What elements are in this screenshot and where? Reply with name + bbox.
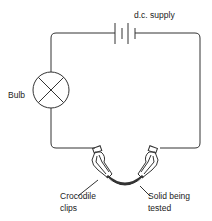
crocodile-clips-label-line1: Crocodile <box>60 191 96 202</box>
wire-right <box>160 103 200 148</box>
bulb-label: Bulb <box>8 90 25 101</box>
solid-label-line1: Solid being <box>148 191 190 202</box>
wire-top-right <box>135 33 200 103</box>
dc-supply-battery-icon <box>115 23 135 44</box>
crocodile-clip-right-icon <box>138 146 158 178</box>
circuit-diagram: d.c. supply Bulb Crocodile clips Solid b… <box>0 0 212 221</box>
circuit-drawing <box>0 0 212 221</box>
dc-supply-label: d.c. supply <box>134 10 175 21</box>
bulb-icon <box>33 72 69 108</box>
crocodile-clips-label-line2: clips <box>60 203 77 214</box>
solid-label-line2: tested <box>148 203 171 214</box>
wire-top-left <box>51 33 115 72</box>
solid-sample-icon <box>107 176 143 184</box>
wire-left <box>51 108 95 148</box>
crocodile-clip-left-icon <box>92 146 112 178</box>
